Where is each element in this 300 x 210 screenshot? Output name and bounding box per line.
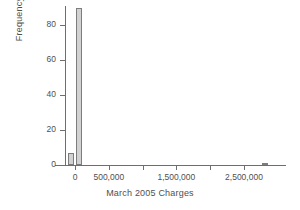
y-axis-label: Frequency (14, 0, 26, 64)
y-axis-tick (60, 60, 65, 61)
histogram-chart: Frequency 0204060800500,0001,500,0002,50… (0, 0, 300, 210)
x-axis-tick-label: 500,000 (74, 172, 144, 182)
x-axis-tick-label: 2,500,000 (209, 172, 279, 182)
x-axis-label: March 2005 Charges (0, 188, 300, 198)
histogram-bar (262, 163, 269, 165)
histogram-bar (76, 8, 83, 166)
x-axis-tick (143, 165, 144, 170)
y-axis-tick-label: 60 (36, 54, 56, 64)
y-axis-tick-label: 40 (36, 89, 56, 99)
x-axis-tick (109, 165, 110, 170)
y-axis-tick-label: 20 (36, 124, 56, 134)
y-axis-tick-label: 80 (36, 19, 56, 29)
y-axis-tick (60, 130, 65, 131)
x-axis-tick (75, 165, 76, 170)
x-axis-tick (176, 165, 177, 170)
x-axis-tick (244, 165, 245, 170)
y-axis-tick (60, 95, 65, 96)
y-axis-tick-label: 0 (36, 159, 56, 169)
histogram-bar (68, 153, 75, 165)
x-axis-tick-label: 1,500,000 (141, 172, 211, 182)
y-axis-tick (60, 25, 65, 26)
x-axis-line (55, 165, 286, 166)
y-axis-tick (60, 165, 65, 166)
y-axis-line (65, 6, 66, 166)
x-axis-tick (210, 165, 211, 170)
